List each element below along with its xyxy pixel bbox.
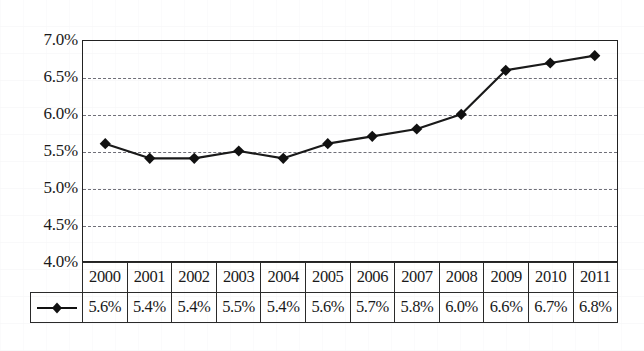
- table-value-cell: 5.7%: [350, 293, 395, 323]
- table-header-cell: 2001: [127, 263, 172, 293]
- chart-plot-area: [82, 40, 618, 262]
- data-point-marker[interactable]: [411, 123, 422, 134]
- table-header-cell: 2008: [439, 263, 484, 293]
- legend-series-marker-cell: [31, 293, 83, 323]
- data-point-marker[interactable]: [545, 57, 556, 68]
- table-header-cell: 2005: [305, 263, 350, 293]
- table-header-cell: 2010: [528, 263, 573, 293]
- table-header-cell: 2004: [261, 263, 306, 293]
- table-corner-blank: [31, 263, 83, 293]
- table-header-cell: 2007: [395, 263, 440, 293]
- table-header-cell: 2006: [350, 263, 395, 293]
- table-value-cell: 5.5%: [216, 293, 261, 323]
- table-value-cell: 5.6%: [83, 293, 128, 323]
- table-value-cell: 6.8%: [573, 293, 618, 323]
- table-value-cell: 5.6%: [305, 293, 350, 323]
- y-axis-tick-label: 6.5%: [28, 68, 78, 85]
- y-axis-tick-label: 4.5%: [28, 216, 78, 233]
- table-header-cell: 2000: [83, 263, 128, 293]
- table-value-cell: 5.4%: [261, 293, 306, 323]
- data-point-marker[interactable]: [322, 138, 333, 149]
- data-point-marker[interactable]: [189, 153, 200, 164]
- data-point-marker[interactable]: [367, 131, 378, 142]
- table-value-cell: 6.0%: [439, 293, 484, 323]
- y-axis-tick-label: 5.5%: [28, 142, 78, 159]
- line-chart-figure: 7.0%6.5%6.0%5.5%5.0%4.5%4.0% 20002001200…: [0, 0, 644, 351]
- table-header-cell: 2011: [573, 263, 618, 293]
- table-value-cell: 5.8%: [395, 293, 440, 323]
- table-value-cell: 5.4%: [127, 293, 172, 323]
- data-series-line: [83, 41, 617, 261]
- y-axis-tick-label: 5.0%: [28, 179, 78, 196]
- series-polyline: [105, 56, 595, 159]
- legend-diamond-line-icon: [35, 302, 79, 314]
- data-point-marker[interactable]: [100, 138, 111, 149]
- y-axis-tick-label: 6.0%: [28, 105, 78, 122]
- table-header-cell: 2003: [216, 263, 261, 293]
- data-point-marker[interactable]: [233, 145, 244, 156]
- data-table: 2000200120022003200420052006200720082009…: [30, 262, 618, 323]
- table-value-cell: 6.7%: [528, 293, 573, 323]
- table-header-cell: 2002: [172, 263, 217, 293]
- data-point-marker[interactable]: [144, 153, 155, 164]
- y-axis-tick-label: 7.0%: [28, 31, 78, 48]
- table-value-row: 5.6%5.4%5.4%5.5%5.4%5.6%5.7%5.8%6.0%6.6%…: [31, 293, 618, 323]
- table-value-cell: 6.6%: [484, 293, 529, 323]
- table-value-cell: 5.4%: [172, 293, 217, 323]
- data-point-marker[interactable]: [278, 153, 289, 164]
- data-point-marker[interactable]: [589, 50, 600, 61]
- table-header-cell: 2009: [484, 263, 529, 293]
- table-header-row: 2000200120022003200420052006200720082009…: [31, 263, 618, 293]
